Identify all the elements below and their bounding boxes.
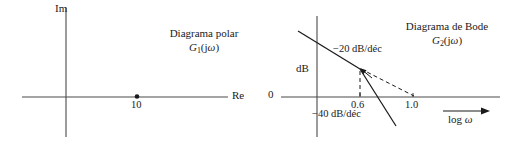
polar-plot-title: Diagrama polar <box>148 27 260 39</box>
bode-tick-label-1-0: 1.0 <box>405 99 418 111</box>
polar-real-axis-label: Re <box>232 89 244 101</box>
bode-plot-function: G2(jω) <box>388 34 505 49</box>
figure-container: Im Re 10 Diagrama polar G1(jω) dB 0 0.6 … <box>0 0 505 142</box>
log-omega-prefix: log <box>448 113 465 125</box>
bode-function-symbol: G <box>432 34 440 46</box>
bode-plot-title: Diagrama de Bode <box>388 20 505 32</box>
bode-magnitude-axis-label: dB <box>296 62 309 74</box>
bode-slope-label-minus40: −40 dB/déc <box>312 108 361 120</box>
bode-function-open: (j <box>444 34 451 46</box>
log-omega-symbol: ω <box>465 113 473 125</box>
bode-breakpoint-arrow-icon <box>360 68 373 78</box>
polar-point-label: 10 <box>131 99 142 111</box>
polar-function-symbol: G <box>189 41 197 53</box>
polar-plot-function: G1(jω) <box>148 41 260 56</box>
bode-slope-label-minus20: −20 dB/déc <box>333 43 382 55</box>
bode-function-close: ) <box>458 34 462 46</box>
polar-imaginary-axis-label: Im <box>55 2 67 14</box>
polar-function-close: ) <box>215 41 219 53</box>
bode-frequency-axis-label: log ω <box>448 113 473 125</box>
polar-function-open: (j <box>201 41 208 53</box>
bode-origin-label: 0 <box>268 88 274 100</box>
bode-axis-ticks <box>360 93 413 97</box>
